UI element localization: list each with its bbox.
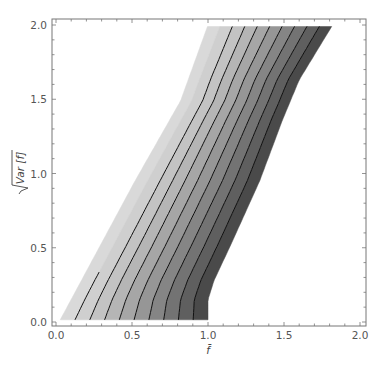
- y-axis-label: Var [f]: [12, 150, 28, 194]
- x-tick-label: 0.5: [124, 329, 141, 341]
- x-axis-label: f̄: [206, 344, 212, 356]
- y-tick-label: 2.0: [30, 19, 47, 31]
- x-tick-labels: 0.00.51.01.52.0: [48, 329, 369, 341]
- contour-chart: 0.00.51.01.52.0 0.00.51.01.52.0 f̄ Var […: [0, 0, 382, 369]
- x-tick-label: 1.0: [200, 329, 217, 341]
- x-tick-label: 0.0: [48, 329, 65, 341]
- y-tick-label: 1.5: [30, 93, 47, 105]
- y-tick-label: 1.0: [30, 168, 47, 180]
- y-tick-labels: 0.00.51.01.52.0: [30, 19, 47, 328]
- x-tick-label: 2.0: [352, 329, 369, 341]
- y-tick-label: 0.0: [30, 316, 47, 328]
- y-tick-label: 0.5: [30, 242, 47, 254]
- contour-bands: [60, 27, 332, 320]
- svg-text:Var [f]: Var [f]: [14, 152, 26, 185]
- x-tick-label: 1.5: [276, 329, 293, 341]
